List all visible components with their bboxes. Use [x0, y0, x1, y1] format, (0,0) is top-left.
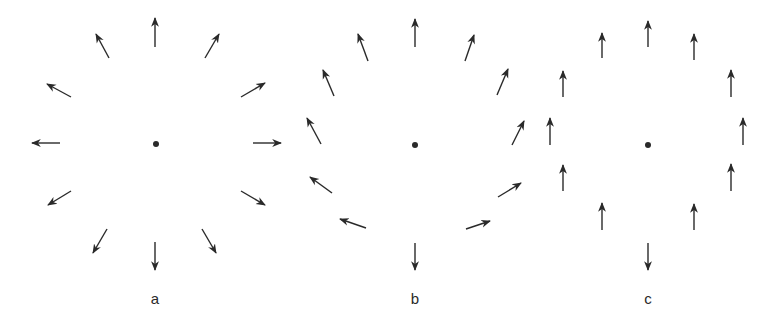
diagram-b — [307, 19, 524, 270]
arrow-icon — [323, 70, 334, 96]
arrow-icon — [241, 83, 265, 97]
center-dot — [645, 142, 651, 148]
diagram-a — [32, 18, 281, 270]
arrow-icon — [340, 219, 366, 228]
arrow-icon — [241, 191, 265, 205]
diagram-c — [550, 21, 743, 270]
arrow-icon — [93, 229, 107, 253]
arrow-icon — [310, 177, 332, 193]
diagram-label-c: c — [644, 290, 652, 307]
arrow-icon — [48, 191, 71, 205]
arrow-icon — [497, 69, 508, 95]
arrow-icon — [498, 183, 521, 197]
arrow-icon — [205, 34, 219, 58]
diagram-label-a: a — [151, 290, 159, 307]
arrow-icon — [47, 84, 71, 97]
center-dot — [153, 141, 159, 147]
arrow-icon — [465, 35, 474, 61]
arrow-icon — [512, 121, 524, 145]
arrow-icon — [202, 229, 216, 253]
diagram-label-b: b — [411, 290, 419, 307]
arrow-icon — [466, 221, 490, 229]
vector-field-canvas — [0, 0, 772, 326]
center-dot — [412, 142, 418, 148]
arrow-icon — [358, 34, 368, 61]
arrow-icon — [307, 118, 321, 144]
arrow-icon — [96, 34, 109, 58]
